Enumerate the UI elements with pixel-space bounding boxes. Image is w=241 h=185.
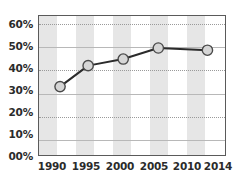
y-tick-label-50: 50%	[8, 41, 33, 51]
line-chart: 60% 50% 40% 30% 20% 10% 00% 1990 1995 20…	[0, 0, 241, 185]
y-tick-label-60: 60%	[8, 19, 33, 29]
data-point	[153, 43, 163, 53]
y-tick-label-10: 10%	[8, 129, 33, 139]
series-line	[60, 48, 207, 87]
x-axis: 1990 1995 2000 2005 2010 2014	[0, 160, 241, 182]
x-tick-label-2010: 2010	[173, 160, 201, 172]
x-tick-label-1990: 1990	[38, 160, 66, 172]
y-tick-label-40: 40%	[8, 63, 33, 73]
y-axis: 60% 50% 40% 30% 20% 10% 00%	[0, 0, 36, 185]
y-tick-label-20: 20%	[8, 107, 33, 117]
x-tick-label-1995: 1995	[72, 160, 100, 172]
x-tick-label-2005: 2005	[140, 160, 168, 172]
plot-area	[38, 15, 226, 156]
data-point	[83, 61, 93, 71]
data-point	[55, 81, 65, 91]
x-tick-label-2014: 2014	[204, 160, 232, 172]
x-tick-label-2000: 2000	[106, 160, 134, 172]
data-point	[118, 54, 128, 64]
data-point	[202, 45, 212, 55]
y-tick-label-30: 30%	[8, 85, 33, 95]
series-layer	[39, 16, 225, 155]
